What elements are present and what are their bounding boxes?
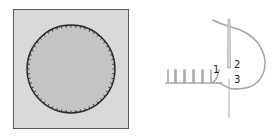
step-label-1: 1 bbox=[213, 65, 219, 75]
needle-icon bbox=[227, 19, 230, 68]
stitch-row bbox=[166, 70, 229, 88]
step-label-3: 3 bbox=[234, 75, 240, 85]
diagram-canvas: 1 2 3 bbox=[0, 0, 276, 139]
step-label-2: 2 bbox=[234, 60, 240, 70]
